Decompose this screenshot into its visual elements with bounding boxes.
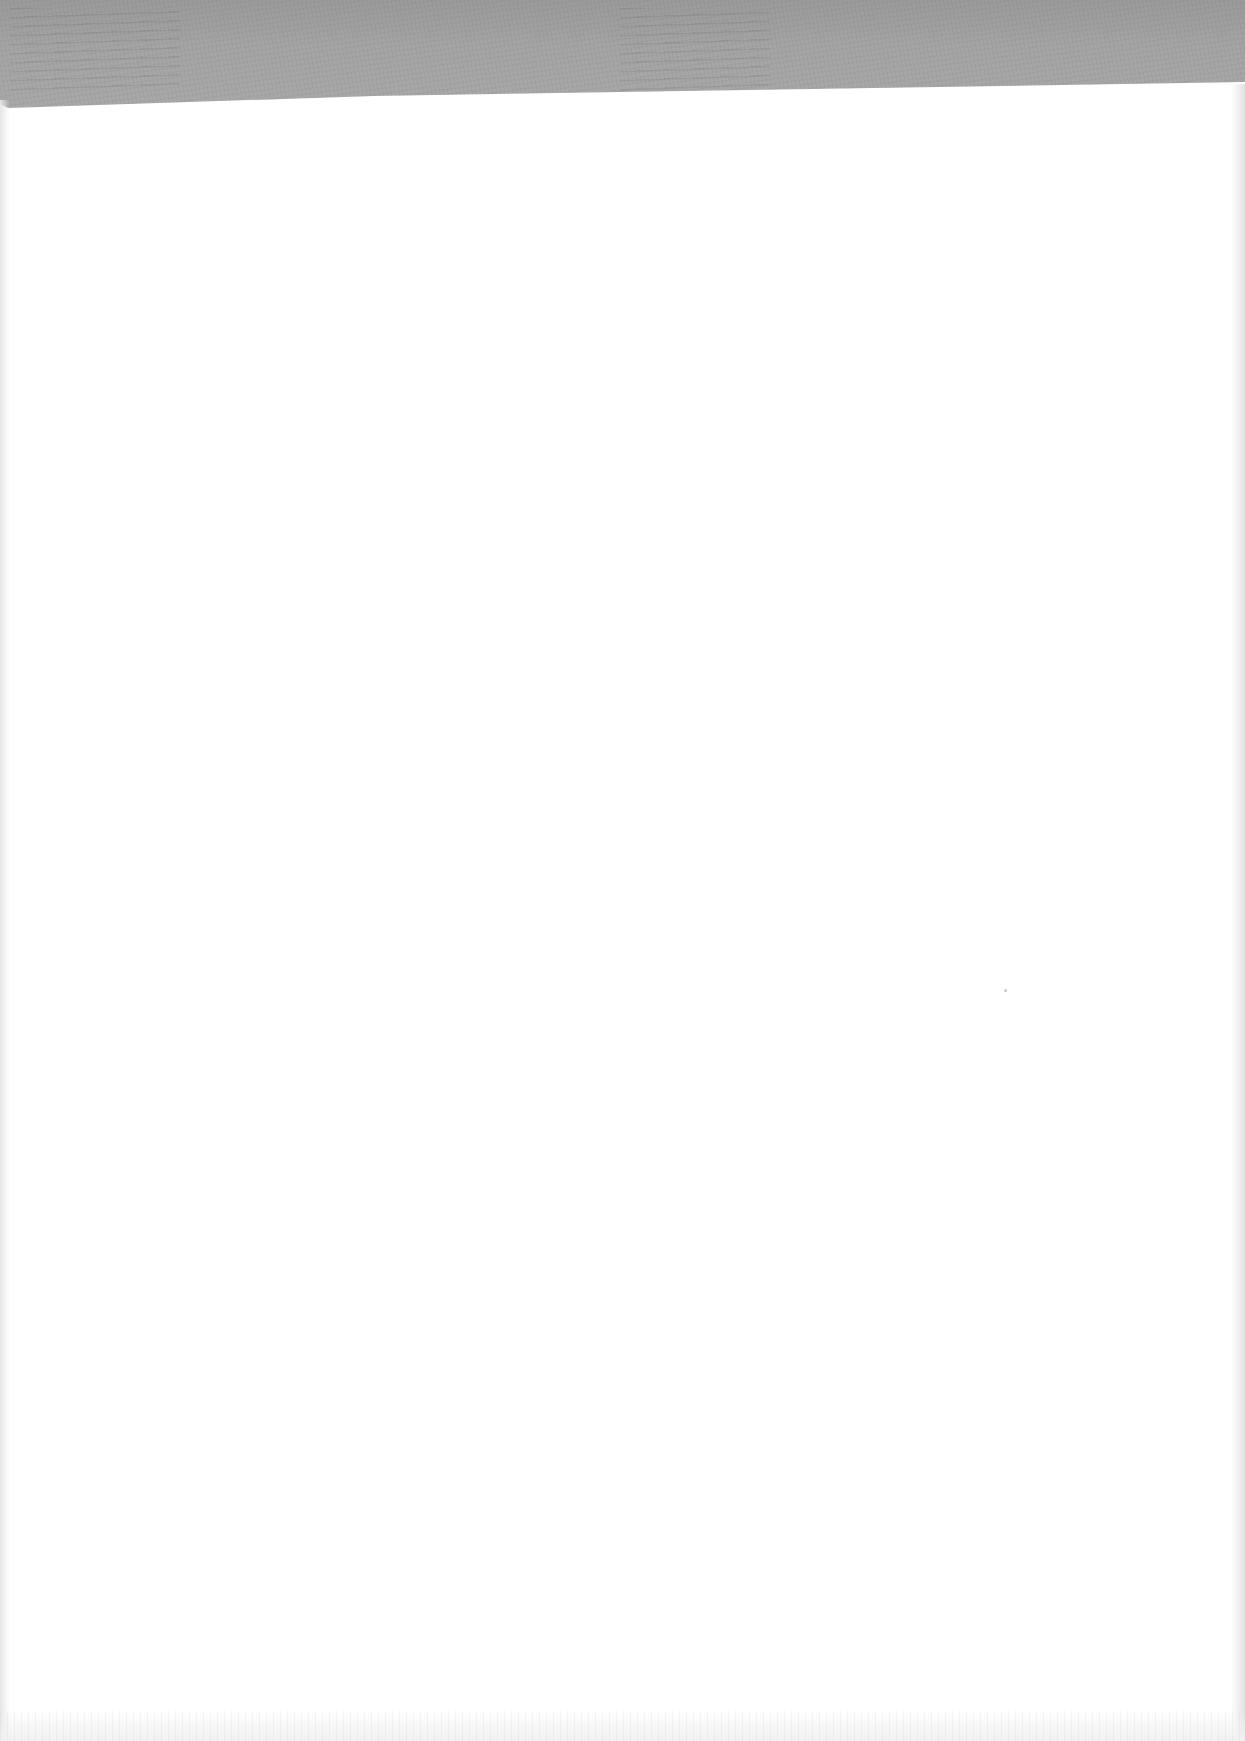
left-edge-shadow [0, 100, 10, 1741]
right-edge-shadow [1231, 84, 1245, 1741]
bleed-through-texture [620, 8, 770, 92]
bleed-through-texture [10, 8, 180, 92]
bottom-scan-noise [0, 1711, 1245, 1741]
blank-scanned-page [0, 0, 1245, 1741]
gray-scan-band [0, 0, 1245, 112]
scan-speck [1004, 989, 1007, 992]
